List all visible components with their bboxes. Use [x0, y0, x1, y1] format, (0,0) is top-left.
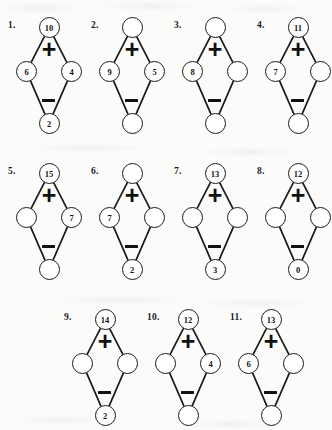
- number-bond-puzzle: 8.+120: [255, 160, 332, 290]
- bond-diagram: +133: [180, 160, 250, 288]
- bond-node-bottom[interactable]: [288, 113, 309, 134]
- bond-node-left[interactable]: [182, 207, 203, 228]
- bond-node-top[interactable]: 12: [288, 163, 309, 184]
- bond-node-right[interactable]: [227, 61, 248, 82]
- number-bond-puzzle: 3.+8: [172, 14, 255, 144]
- bond-node-right[interactable]: 4: [61, 61, 82, 82]
- minus-operator-icon: [290, 244, 306, 250]
- bond-diagram: +95: [97, 14, 167, 142]
- bond-node-bottom[interactable]: 3: [205, 259, 226, 280]
- minus-operator-icon: [263, 390, 279, 396]
- plus-operator-icon: +: [178, 330, 198, 352]
- bond-node-right[interactable]: [227, 207, 248, 228]
- bond-node-top[interactable]: [122, 163, 143, 184]
- bond-node-left[interactable]: [72, 353, 93, 374]
- plus-operator-icon: +: [39, 38, 59, 60]
- minus-operator-icon: [207, 244, 223, 250]
- plus-operator-icon: +: [122, 38, 142, 60]
- bond-node-left[interactable]: 8: [182, 61, 203, 82]
- bond-diagram: +8: [180, 14, 250, 142]
- minus-operator-icon: [41, 244, 57, 250]
- bond-node-right[interactable]: 5: [144, 61, 165, 82]
- bond-node-left[interactable]: [16, 207, 37, 228]
- bond-node-left[interactable]: [155, 353, 176, 374]
- bond-node-top[interactable]: 11: [288, 17, 309, 38]
- bond-diagram: +124: [153, 306, 223, 430]
- bond-node-left[interactable]: [265, 207, 286, 228]
- plus-operator-icon: +: [261, 330, 281, 352]
- bond-node-left[interactable]: 6: [16, 61, 37, 82]
- bond-node-bottom[interactable]: 2: [39, 113, 60, 134]
- bond-node-bottom[interactable]: [205, 113, 226, 134]
- bond-diagram: +142: [70, 306, 140, 430]
- bond-node-right[interactable]: [117, 353, 138, 374]
- bond-node-bottom[interactable]: 2: [95, 405, 116, 426]
- bond-diagram: +157: [14, 160, 84, 288]
- bond-node-left[interactable]: 7: [99, 207, 120, 228]
- bond-node-right[interactable]: [310, 61, 331, 82]
- bond-diagram: +120: [263, 160, 332, 288]
- plus-operator-icon: +: [205, 38, 225, 60]
- bond-node-right[interactable]: [310, 207, 331, 228]
- number-bond-puzzle: 9.+142: [62, 306, 145, 430]
- plus-operator-icon: +: [95, 330, 115, 352]
- minus-operator-icon: [124, 244, 140, 250]
- bond-node-right[interactable]: [144, 207, 165, 228]
- bond-node-top[interactable]: 15: [39, 163, 60, 184]
- bond-node-bottom[interactable]: [122, 113, 143, 134]
- plus-operator-icon: +: [288, 184, 308, 206]
- number-bond-puzzle: 2.+95: [89, 14, 172, 144]
- bond-node-top[interactable]: 10: [39, 17, 60, 38]
- plus-operator-icon: +: [288, 38, 308, 60]
- plus-operator-icon: +: [205, 184, 225, 206]
- minus-operator-icon: [207, 98, 223, 104]
- bond-diagram: +136: [236, 306, 306, 430]
- number-bond-worksheet: 1.+106422.+953.+84.+1175.+1576.+727.+133…: [0, 0, 332, 430]
- bond-diagram: +117: [263, 14, 332, 142]
- number-bond-puzzle: 4.+117: [255, 14, 332, 144]
- minus-operator-icon: [124, 98, 140, 104]
- bond-node-right[interactable]: [283, 353, 304, 374]
- bond-node-left[interactable]: 9: [99, 61, 120, 82]
- bond-node-bottom[interactable]: [178, 405, 199, 426]
- bond-node-right[interactable]: 7: [61, 207, 82, 228]
- number-bond-puzzle: 5.+157: [6, 160, 89, 290]
- number-bond-puzzle: 11.+136: [228, 306, 311, 430]
- bond-diagram: +10642: [14, 14, 84, 142]
- minus-operator-icon: [41, 98, 57, 104]
- minus-operator-icon: [290, 98, 306, 104]
- number-bond-puzzle: 1.+10642: [6, 14, 89, 144]
- bond-node-bottom[interactable]: 0: [288, 259, 309, 280]
- bond-node-left[interactable]: 7: [265, 61, 286, 82]
- number-bond-puzzle: 10.+124: [145, 306, 228, 430]
- bond-node-top[interactable]: 14: [95, 309, 116, 330]
- plus-operator-icon: +: [122, 184, 142, 206]
- number-bond-puzzle: 6.+72: [89, 160, 172, 290]
- bond-diagram: +72: [97, 160, 167, 288]
- bond-node-top[interactable]: 12: [178, 309, 199, 330]
- minus-operator-icon: [180, 390, 196, 396]
- bond-node-bottom[interactable]: 2: [122, 259, 143, 280]
- bond-node-bottom[interactable]: [261, 405, 282, 426]
- bond-node-bottom[interactable]: [39, 259, 60, 280]
- bond-node-top[interactable]: [205, 17, 226, 38]
- plus-operator-icon: +: [39, 184, 59, 206]
- bond-node-left[interactable]: 6: [238, 353, 259, 374]
- bond-node-right[interactable]: 4: [200, 353, 221, 374]
- number-bond-puzzle: 7.+133: [172, 160, 255, 290]
- bond-node-top[interactable]: [122, 17, 143, 38]
- bond-node-top[interactable]: 13: [205, 163, 226, 184]
- bond-node-top[interactable]: 13: [261, 309, 282, 330]
- minus-operator-icon: [97, 390, 113, 396]
